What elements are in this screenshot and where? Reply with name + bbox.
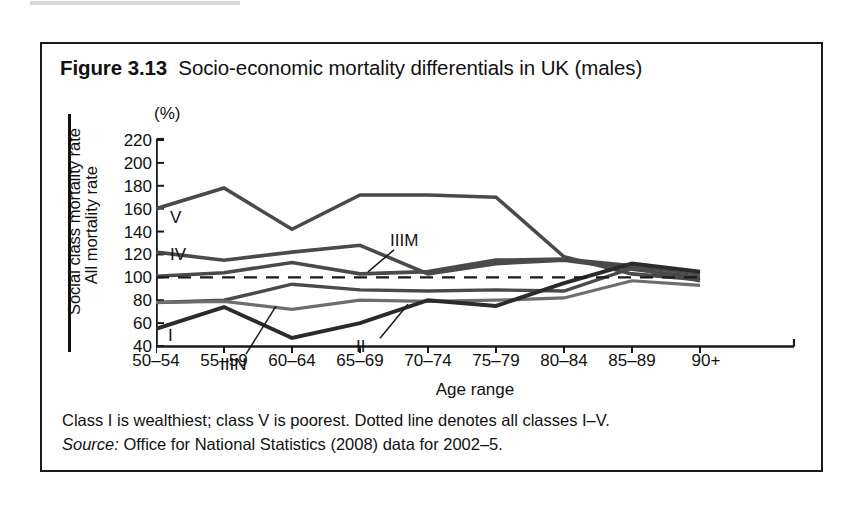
source-text: Office for National Statistics (2008) da… <box>123 435 502 453</box>
y-axis-fraction: Social class mortality rate All mortalit… <box>66 106 100 356</box>
figure-panel: Figure 3.13 Socio-economic mortality dif… <box>40 42 823 472</box>
x-tick-label: 90+ <box>692 352 721 369</box>
y-tick-label: 60 <box>133 315 152 332</box>
plot-wrapper: 406080100120140160180200220 50–5455–5960… <box>112 130 806 368</box>
scan-artifact-strip <box>0 0 863 8</box>
y-tick-label: 140 <box>124 223 152 240</box>
chart: Social class mortality rate All mortalit… <box>60 96 810 396</box>
x-tick-label-group: 50–5455–5960–6465–6970–7475–7980–8485–89… <box>156 352 806 378</box>
series-label-i: I <box>168 327 173 344</box>
series-label-v: V <box>170 209 181 226</box>
series-label-iiim: IIIM <box>390 232 418 249</box>
y-tick-label: 220 <box>124 132 152 149</box>
y-axis-unit: (%) <box>154 104 180 124</box>
footnote-source: Source: Office for National Statistics (… <box>62 433 802 456</box>
figure-title-text: Socio-economic mortality differentials i… <box>178 56 642 79</box>
y-axis-title: Social class mortality rate All mortalit… <box>66 106 100 356</box>
x-axis-title: Age range <box>156 380 806 400</box>
y-axis-denominator: All mortality rate <box>83 166 100 284</box>
y-tick-label: 120 <box>124 246 152 263</box>
x-tick-label: 60–64 <box>268 352 315 369</box>
y-tick-label: 80 <box>133 292 152 309</box>
x-axis-title-text: Age range <box>436 380 514 399</box>
leader-line-ii <box>380 304 408 338</box>
y-tick-label-group: 406080100120140160180200220 <box>112 130 152 346</box>
x-tick-label: 70–74 <box>404 352 451 369</box>
figure-title: Figure 3.13 Socio-economic mortality dif… <box>60 56 642 80</box>
figure-number: Figure 3.13 <box>60 56 167 79</box>
y-tick-label: 200 <box>124 154 152 171</box>
y-tick-label: 160 <box>124 200 152 217</box>
y-tick-label: 100 <box>124 269 152 286</box>
x-tick-label: 50–54 <box>132 352 179 369</box>
x-tick-label: 80–84 <box>540 352 587 369</box>
series-label-ii: II <box>356 338 365 355</box>
series-label-iiin: IIIN <box>220 356 246 373</box>
y-tick-label: 180 <box>124 177 152 194</box>
series-lines-svg <box>156 130 804 368</box>
figure-footnotes: Class I is wealthiest; class V is poores… <box>62 409 802 456</box>
series-label-iv: IV <box>170 246 186 263</box>
x-tick-label: 85–89 <box>608 352 655 369</box>
y-axis-numerator: Social class mortality rate <box>66 128 83 315</box>
plot-canvas <box>156 130 804 368</box>
x-tick-label: 75–79 <box>472 352 519 369</box>
series-line-ii <box>156 281 700 310</box>
footnote-note: Class I is wealthiest; class V is poores… <box>62 409 802 432</box>
source-label: Source: <box>62 435 119 453</box>
